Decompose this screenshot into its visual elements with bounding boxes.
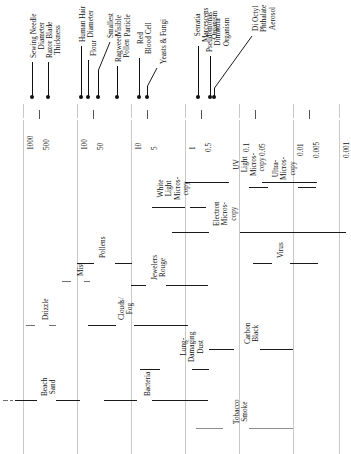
marker-stem-yeasts-fungi bbox=[147, 86, 148, 96]
label-mist-line1: Mist bbox=[77, 263, 85, 276]
gridline-stub-0.01 bbox=[293, 104, 294, 118]
range-bar-carbon-black-right bbox=[260, 349, 293, 350]
label-human-hair-line2: Diameter bbox=[87, 6, 95, 42]
marker-stem-pseudomonas-diminuta bbox=[210, 56, 211, 96]
label-clouds-fog: Clouds/ Fog bbox=[118, 297, 135, 320]
label-ultra-line3: copy bbox=[289, 157, 297, 180]
marker-stem-sewing-needle bbox=[32, 62, 33, 96]
leader-line-smallest-visible-particle bbox=[99, 42, 111, 70]
marker-stem-red-blood-cell bbox=[139, 58, 140, 96]
range-bar-jewelers-rouge-right bbox=[166, 285, 208, 286]
label-tobacco-line2: Smoke bbox=[241, 399, 249, 424]
label-yeasts-fungi: Yeasts & Fungi bbox=[160, 19, 168, 64]
label-ultra-microscopy: Ultra- Micros- copy bbox=[272, 157, 297, 180]
label-di-octyl-phthalate: Di Octyl Phthalate Aerosol bbox=[252, 5, 277, 32]
range-bar-jewelers-rouge-left bbox=[131, 285, 146, 286]
label-pseudomonas-line3: Organism bbox=[223, 12, 231, 52]
gridline-stub-0.1 bbox=[239, 104, 240, 118]
label-bacteria-line1: Bacteria bbox=[144, 372, 152, 396]
range-bar-tobacco-smoke-left bbox=[196, 428, 223, 429]
axis-label-10: 10 bbox=[135, 143, 143, 150]
label-virus-line1: Virus bbox=[277, 242, 285, 258]
axis-label-0.5: 0.5 bbox=[205, 143, 213, 152]
label-drizzle: Drizzle bbox=[42, 299, 50, 320]
range-bar-virus-right bbox=[290, 263, 318, 264]
gridline-stub-10 bbox=[131, 104, 132, 118]
axis-label-1: 1 bbox=[189, 146, 197, 150]
label-pollens-line1: Pollens bbox=[99, 237, 107, 259]
label-uv-line4: copy bbox=[258, 153, 266, 176]
range-bar-white-light-microscopy-left bbox=[152, 207, 185, 208]
range-bar-beach-sand-open-end2 bbox=[10, 400, 13, 401]
range-bar-electron-microscopy-left bbox=[172, 232, 209, 233]
marker-stem-razor-blade bbox=[48, 62, 49, 96]
marker-stem-smallest-visible-particle bbox=[98, 70, 99, 96]
label-carbon-black: Carbon Black bbox=[244, 323, 261, 344]
range-bar-mist-right bbox=[84, 281, 90, 282]
range-bar-bacteria-left bbox=[104, 400, 137, 401]
axis-label-0.1: 0.1 bbox=[243, 143, 251, 152]
label-razor-blade: Razor Blade Thickness bbox=[46, 22, 63, 58]
axis-label-500: 500 bbox=[43, 139, 51, 150]
label-lung-damaging-dust: Lung- Damaging Dust bbox=[180, 332, 205, 362]
range-bar-white-light-microscopy-right bbox=[190, 207, 206, 208]
range-bar-clouds-fog-left bbox=[88, 325, 116, 326]
label-red-blood-cell: Red Blood Cell bbox=[137, 22, 154, 54]
range-bar-clouds-fog-right bbox=[134, 325, 188, 326]
tick-0.05 bbox=[255, 110, 256, 119]
range-bar-lung-damaging-dust-right bbox=[192, 369, 209, 370]
range-bar-mist-left bbox=[62, 281, 71, 282]
range-bar-carbon-black-left bbox=[209, 349, 234, 350]
gridline-1 bbox=[185, 120, 186, 454]
range-bar-beach-sand-left bbox=[15, 400, 37, 401]
tick-50 bbox=[93, 110, 94, 119]
label-pseudomonas-diminuta: Pseudomonas Diminuta Organism bbox=[206, 12, 231, 52]
label-drizzle-line1: Drizzle bbox=[42, 299, 50, 320]
range-bar-pollens-right bbox=[115, 263, 132, 264]
axis-label-0.01: 0.01 bbox=[297, 143, 305, 156]
marker-stem-flour bbox=[88, 60, 89, 96]
gridline-stub-1 bbox=[185, 104, 186, 118]
label-beach-line2: Sand bbox=[49, 378, 57, 396]
tick-5 bbox=[147, 110, 148, 119]
label-flour: Flour bbox=[90, 40, 98, 56]
range-bar-lung-damaging-dust-left bbox=[140, 369, 160, 370]
tick-0.005 bbox=[309, 110, 310, 119]
label-electron-line3: copy bbox=[230, 201, 238, 226]
axis-label-1000: 1000 bbox=[27, 136, 35, 150]
label-lung-line3: Dust bbox=[197, 332, 205, 362]
gridline-1000 bbox=[23, 120, 24, 454]
label-razor-blade-line2: Thickness bbox=[54, 22, 62, 58]
gridline-stub-0.001 bbox=[339, 104, 340, 118]
label-white-light-microscopy: White Light Micros- copy bbox=[157, 177, 191, 200]
label-carbon-line2: Black bbox=[252, 323, 260, 344]
range-bar-drizzle-right bbox=[49, 325, 56, 326]
range-bar-uv-microscopy-right bbox=[262, 182, 317, 183]
axis-label-5: 5 bbox=[151, 146, 159, 150]
label-tobacco-smoke: Tobacco Smoke bbox=[233, 399, 250, 424]
axis-label-0.001: 0.001 bbox=[343, 142, 351, 158]
label-ragweed-pollen-line2: Pollen bbox=[123, 35, 131, 62]
range-bar-beach-sand-right bbox=[56, 400, 80, 401]
label-flour-line1: Flour bbox=[90, 40, 98, 56]
label-bacteria: Bacteria bbox=[144, 372, 152, 396]
range-bar-beach-sand-open-end bbox=[3, 400, 8, 401]
axis-label-100: 100 bbox=[81, 139, 89, 150]
label-virus: Virus bbox=[277, 242, 285, 258]
gridline-stub-1000 bbox=[23, 104, 24, 118]
label-human-hair: Human Hair Diameter bbox=[79, 6, 96, 42]
range-bar-uv-microscopy-left bbox=[185, 182, 229, 183]
label-beach-sand: Beach Sand bbox=[41, 378, 58, 396]
marker-stem-human-hair bbox=[81, 46, 82, 96]
label-mist: Mist bbox=[77, 263, 85, 276]
range-bar-ultra-microscopy-left bbox=[249, 187, 268, 188]
range-bar-bacteria-right bbox=[152, 400, 208, 401]
range-bar-tobacco-smoke-right bbox=[249, 428, 293, 429]
label-ragweed-pollen: Ragweed Pollen bbox=[115, 35, 132, 62]
range-bar-virus-left bbox=[253, 263, 272, 264]
label-jewelers-line2: Rouge bbox=[159, 255, 167, 280]
axis-label-50: 50 bbox=[97, 143, 105, 150]
range-bar-ultra-microscopy-right bbox=[298, 187, 316, 188]
label-electron-microscopy: Electron Micros- copy bbox=[213, 201, 238, 226]
